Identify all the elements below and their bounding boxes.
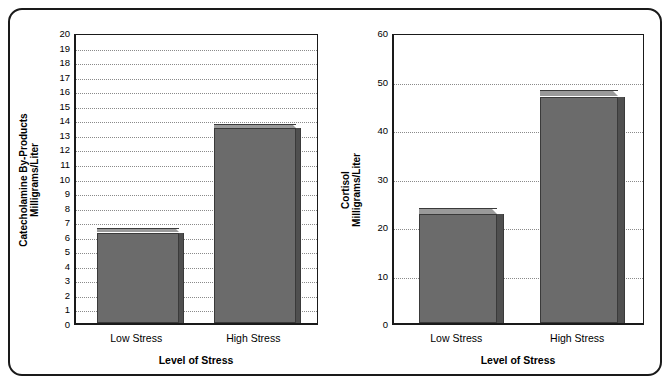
y-tick-label: 30 <box>344 175 388 185</box>
bar-top-edge <box>540 90 618 91</box>
chart-panel-cortisol: Cortisol Milligrams/Liter 0102030405060 … <box>340 10 664 374</box>
y-tick-label: 1 <box>14 305 70 315</box>
bar-high-stress <box>540 90 618 323</box>
bar-side-face <box>179 233 183 323</box>
y-tick-label: 40 <box>344 126 388 136</box>
bar-side-face <box>618 97 625 323</box>
gridline <box>76 93 317 94</box>
gridline <box>76 79 317 80</box>
left-y-tick-labels: 01234567891011121314151617181920 <box>10 10 70 374</box>
right-y-tick-labels: 0102030405060 <box>340 10 388 374</box>
y-tick-label: 20 <box>14 29 70 39</box>
y-tick-label: 11 <box>14 160 70 170</box>
bar-low-stress <box>419 208 497 323</box>
chart-panel-catecholamine: Catecholamine By-Products Milligrams/Lit… <box>10 10 340 374</box>
bar-high-stress <box>214 124 296 323</box>
y-tick-label: 8 <box>14 204 70 214</box>
y-tick-label: 20 <box>344 223 388 233</box>
y-tick-label: 9 <box>14 189 70 199</box>
y-tick-label: 6 <box>14 233 70 243</box>
bar-side-face <box>296 128 300 323</box>
bar-top-edge <box>419 208 497 209</box>
bar-top-edge <box>97 228 179 229</box>
figure-frame: Catecholamine By-Products Milligrams/Lit… <box>8 8 662 376</box>
y-tick-label: 4 <box>14 262 70 272</box>
y-tick-label: 13 <box>14 131 70 141</box>
y-tick-label: 50 <box>344 78 388 88</box>
bar-face <box>214 128 296 323</box>
bar-low-stress <box>97 228 179 323</box>
y-tick-label: 14 <box>14 116 70 126</box>
y-tick-label: 2 <box>14 291 70 301</box>
bar-face <box>419 214 497 323</box>
gridline <box>76 108 317 109</box>
left-x-category-1: Low Stress <box>76 332 196 344</box>
y-tick-label: 10 <box>14 175 70 185</box>
y-tick-label: 60 <box>344 29 388 39</box>
bar-face <box>540 97 618 323</box>
gridline <box>394 84 643 85</box>
y-tick-label: 19 <box>14 44 70 54</box>
y-tick-label: 16 <box>14 87 70 97</box>
y-tick-label: 10 <box>344 272 388 282</box>
y-tick-label: 3 <box>14 276 70 286</box>
left-x-category-2: High Stress <box>193 332 313 344</box>
y-tick-label: 18 <box>14 58 70 68</box>
right-x-axis-title: Level of Stress <box>352 354 672 366</box>
right-x-category-1: Low Stress <box>396 332 516 344</box>
right-plot-area <box>392 34 644 325</box>
gridline <box>76 50 317 51</box>
y-tick-label: 12 <box>14 145 70 155</box>
bar-face <box>97 233 179 323</box>
y-tick-label: 7 <box>14 218 70 228</box>
gridline <box>76 64 317 65</box>
left-x-axis-title: Level of Stress <box>34 354 358 366</box>
y-tick-label: 17 <box>14 73 70 83</box>
bar-top-edge <box>214 124 296 125</box>
y-tick-label: 5 <box>14 247 70 257</box>
y-tick-label: 15 <box>14 102 70 112</box>
bar-side-face <box>497 214 503 323</box>
left-plot-area <box>74 34 318 325</box>
y-tick-label: 0 <box>344 320 388 330</box>
y-tick-label: 0 <box>14 320 70 330</box>
right-x-category-2: High Stress <box>517 332 637 344</box>
